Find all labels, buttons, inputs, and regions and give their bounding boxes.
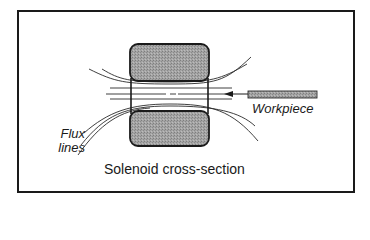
workpiece-label: Workpiece — [252, 101, 313, 116]
flux-label-line1: Flux — [45, 127, 85, 141]
flux-lines-label: Flux lines — [45, 127, 85, 155]
diagram-caption: Solenoid cross-section — [104, 161, 245, 177]
insertion-arrow — [224, 91, 248, 97]
flux-label-line2: lines — [45, 141, 85, 155]
top-coil — [130, 44, 209, 81]
workpiece-bar — [248, 91, 317, 98]
bottom-coil — [130, 111, 209, 146]
